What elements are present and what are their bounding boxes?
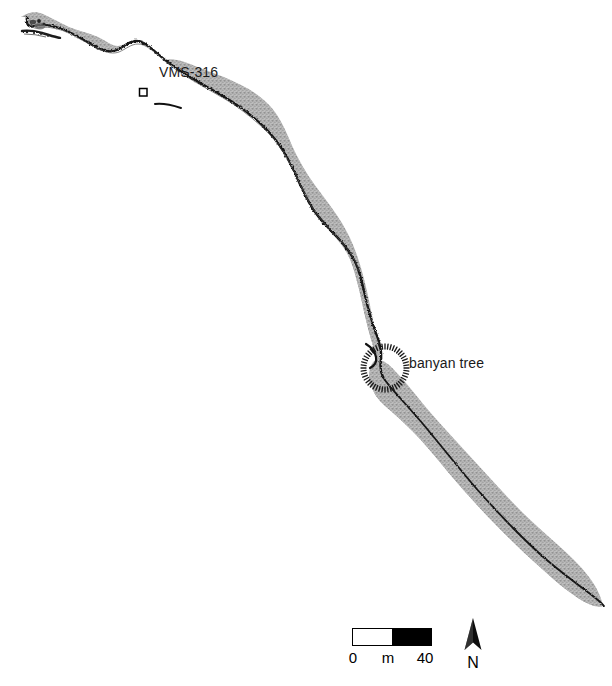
feature-dash-line bbox=[155, 104, 181, 108]
north-arrow: N bbox=[459, 617, 487, 671]
site-label-vms316: VMS-316 bbox=[159, 65, 218, 79]
map-canvas bbox=[0, 0, 612, 686]
scale-bar-box bbox=[352, 628, 432, 646]
banyan-tree-label: banyan tree bbox=[409, 356, 484, 370]
scale-tick-end: 40 bbox=[417, 649, 434, 666]
scale-unit-label: m bbox=[382, 649, 395, 666]
open-square-marker bbox=[140, 89, 148, 97]
terrace-mid-widening bbox=[164, 59, 378, 363]
landform-terrace bbox=[21, 12, 603, 606]
scale-bar-ticks: 0 m 40 bbox=[346, 649, 442, 667]
north-arrow-icon bbox=[459, 617, 487, 653]
site-map-figure: VMS-316 banyan tree 0 m 40 N bbox=[0, 0, 612, 686]
terrace-southeast-lobe bbox=[369, 360, 603, 607]
scale-segment-black bbox=[392, 629, 431, 645]
scale-segment-white bbox=[353, 629, 392, 645]
north-letter: N bbox=[459, 654, 487, 671]
scale-bar: 0 m 40 bbox=[352, 628, 442, 667]
scale-tick-start: 0 bbox=[349, 649, 357, 666]
